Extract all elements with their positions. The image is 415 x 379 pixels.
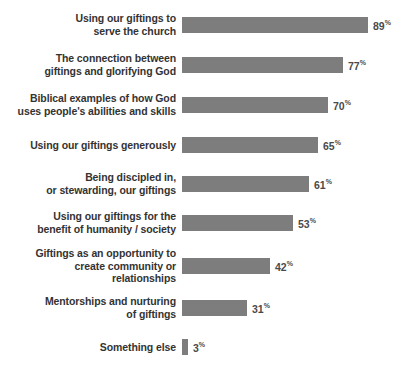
bar-value-number: 42 (275, 261, 287, 273)
bar-row: Something else3% (0, 329, 415, 365)
bar-value-number: 65 (323, 140, 335, 152)
category-label: Using our giftings generously (0, 139, 176, 152)
bar-row: Using our giftings for thebenefit of hum… (0, 205, 415, 241)
bar-row: Mentorships and nurturingof giftings31% (0, 290, 415, 326)
category-label: Something else (0, 341, 176, 354)
category-label-line: Using our giftings for the (0, 210, 176, 223)
bar-value-number: 77 (348, 60, 360, 72)
bar (182, 97, 328, 113)
bar-value-label: 53% (298, 217, 316, 229)
bar-track: 31% (182, 300, 415, 316)
bar-track: 53% (182, 215, 415, 231)
percent-sign: % (287, 260, 293, 267)
bar-track: 77% (182, 57, 415, 73)
category-label-line: giftings and glorifying God (0, 65, 176, 78)
bar-track: 3% (182, 339, 415, 355)
bar-row: Using our giftings generously65% (0, 127, 415, 163)
category-label: Using our giftings for thebenefit of hum… (0, 210, 176, 235)
bar (182, 176, 309, 192)
category-label-line: relationships (0, 272, 176, 285)
bar (182, 339, 188, 355)
bar (182, 215, 293, 231)
bar-value-label: 3% (193, 341, 205, 353)
category-label-line: Mentorships and nurturing (0, 295, 176, 308)
percent-sign: % (345, 99, 351, 106)
bar-value-number: 53 (298, 218, 310, 230)
bar-value-label: 31% (252, 302, 270, 314)
bar-value-number: 31 (252, 303, 264, 315)
bar-row: Using our giftings toserve the church89% (0, 7, 415, 43)
percent-sign: % (360, 59, 366, 66)
bar-value-label: 70% (333, 99, 351, 111)
bar-track: 89% (182, 17, 415, 33)
bar-row: Being discipled in,or stewarding, our gi… (0, 166, 415, 202)
bar-track: 70% (182, 97, 415, 113)
percent-sign: % (335, 139, 341, 146)
bar (182, 300, 247, 316)
category-label: Biblical examples of how Goduses people'… (0, 92, 176, 117)
category-label-line: Using our giftings to (0, 12, 176, 25)
bar (182, 17, 368, 33)
percent-sign: % (385, 19, 391, 26)
category-label-line: Something else (0, 341, 176, 354)
category-label-line: serve the church (0, 25, 176, 38)
category-label-line: benefit of humanity / society (0, 223, 176, 236)
percent-sign: % (326, 178, 332, 185)
bar (182, 258, 270, 274)
bar-row: Biblical examples of how Goduses people'… (0, 87, 415, 123)
category-label: Being discipled in,or stewarding, our gi… (0, 171, 176, 196)
percent-sign: % (264, 302, 270, 309)
bar-value-label: 89% (373, 19, 391, 31)
category-label-line: or stewarding, our giftings (0, 184, 176, 197)
bar-row: Giftings as an opportunity tocreate comm… (0, 248, 415, 284)
category-label-line: uses people's abilities and skills (0, 105, 176, 118)
horizontal-bar-chart: Using our giftings toserve the church89%… (0, 0, 415, 379)
category-label-line: Using our giftings generously (0, 139, 176, 152)
category-label-line: Being discipled in, (0, 171, 176, 184)
bar-row: The connection betweengiftings and glori… (0, 47, 415, 83)
category-label: Mentorships and nurturingof giftings (0, 295, 176, 320)
percent-sign: % (310, 217, 316, 224)
category-label-line: create community or (0, 260, 176, 273)
bar-value-label: 65% (323, 139, 341, 151)
bar-value-number: 70 (333, 100, 345, 112)
category-label: Using our giftings toserve the church (0, 12, 176, 37)
bar-value-label: 42% (275, 260, 293, 272)
percent-sign: % (199, 341, 205, 348)
bar (182, 137, 318, 153)
bar-value-number: 89 (373, 20, 385, 32)
category-label-line: The connection between (0, 52, 176, 65)
bar-track: 42% (182, 258, 415, 274)
category-label-line: Biblical examples of how God (0, 92, 176, 105)
category-label-line: of giftings (0, 308, 176, 321)
bar-value-number: 61 (314, 179, 326, 191)
bar-track: 65% (182, 137, 415, 153)
category-label: Giftings as an opportunity tocreate comm… (0, 247, 176, 285)
bar-value-label: 61% (314, 178, 332, 190)
bar-track: 61% (182, 176, 415, 192)
category-label: The connection betweengiftings and glori… (0, 52, 176, 77)
bar (182, 57, 343, 73)
category-label-line: Giftings as an opportunity to (0, 247, 176, 260)
bar-value-label: 77% (348, 59, 366, 71)
